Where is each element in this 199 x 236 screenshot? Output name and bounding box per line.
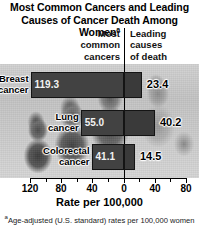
bar-row: Breast cancer119.323.4 — [0, 72, 199, 110]
bar-row: Colorectal cancer41.114.5 — [0, 144, 199, 178]
bar-mortality — [124, 72, 142, 98]
axis-tick — [108, 178, 109, 182]
bar-mortality — [124, 110, 155, 136]
axis-tick-label: 80 — [173, 183, 199, 194]
bar-row: Lung cancer55.040.2 — [0, 110, 199, 148]
axis-tick — [170, 178, 171, 182]
category-label: Lung cancer — [9, 112, 79, 133]
footnote-text: Age-adjusted (U.S. standard) rates per 1… — [8, 216, 195, 225]
axis-tick-label: 80 — [48, 183, 74, 194]
value-label-incidence: 41.1 — [96, 151, 115, 162]
bar-mortality — [124, 144, 135, 170]
column-header-incidence: Most common cancers — [60, 28, 120, 62]
axis-tick-label: 0 — [111, 183, 137, 194]
category-label: Colorectal cancer — [20, 146, 90, 167]
value-label-incidence: 55.0 — [85, 117, 104, 128]
value-label-mortality: 40.2 — [160, 116, 181, 128]
axis-tick-label: 120 — [17, 183, 43, 194]
column-header-mortality: Leading causes of death — [130, 28, 197, 62]
column-headers: Most common cancers Leading causes of de… — [60, 28, 197, 64]
value-label-mortality: 14.5 — [140, 150, 161, 162]
x-axis-title: Rate per 100,000 — [0, 196, 199, 208]
chart-figure: Most Common Cancers and Leading Causes o… — [0, 0, 199, 236]
chart-title-line1: Most Common Cancers and Leading — [10, 1, 189, 13]
column-header-divider — [124, 28, 125, 64]
category-label: Breast cancer — [0, 74, 29, 95]
x-axis: 120804004080 — [0, 178, 199, 198]
plot-area: Breast cancer119.323.4Lung cancer55.040.… — [0, 64, 199, 178]
axis-tick-label: 40 — [79, 183, 105, 194]
value-label-mortality: 23.4 — [147, 78, 168, 90]
axis-tick — [139, 178, 140, 182]
value-label-incidence: 119.3 — [35, 79, 59, 90]
chart-footnote: aAge-adjusted (U.S. standard) rates per … — [0, 216, 199, 225]
axis-tick — [46, 178, 47, 182]
axis-tick — [77, 178, 78, 182]
axis-tick-label: 40 — [142, 183, 168, 194]
